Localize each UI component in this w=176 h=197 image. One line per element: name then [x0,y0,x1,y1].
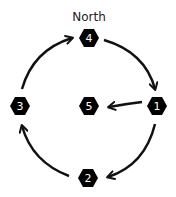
svg-text:5: 5 [86,100,93,113]
svg-text:3: 3 [17,100,24,113]
edge-1-to-5 [109,102,142,107]
edge-4-to-1 [104,40,155,89]
svg-text:4: 4 [86,32,93,45]
node-2: 2 [78,169,98,187]
edge-3-to-4 [22,38,72,89]
node-5: 5 [79,97,99,115]
node-4: 4 [79,29,99,47]
svg-text:1: 1 [154,100,161,113]
svg-text:2: 2 [85,172,92,185]
edge-1-to-2 [108,124,155,177]
cycle-diagram: 4 1 5 3 2 [0,0,176,197]
edge-2-to-3 [22,126,69,176]
node-1: 1 [147,97,167,115]
node-3: 3 [10,97,30,115]
